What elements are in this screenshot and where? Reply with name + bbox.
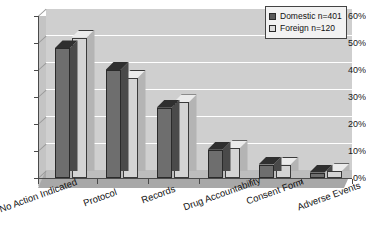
bar-domestic	[157, 100, 172, 178]
x-axis-line	[38, 178, 352, 179]
y-axis-tick-label: 40%	[332, 66, 366, 75]
x-axis-tick-mark	[148, 179, 149, 184]
bar-side-face	[138, 70, 146, 171]
y-axis-tick-label: 20%	[332, 120, 366, 129]
bar-front-face	[208, 150, 223, 178]
category-label: Protocol	[82, 187, 118, 208]
chart-legend: Domestic n=401 Foreign n=120	[265, 6, 347, 39]
legend-item-domestic: Domestic n=401	[269, 11, 342, 22]
legend-swatch-domestic-icon	[269, 13, 276, 20]
x-axis-tick-mark	[97, 179, 98, 184]
bar-front-face	[55, 48, 70, 178]
y-axis-tick-label: 30%	[332, 93, 366, 102]
bar-side-face	[189, 94, 197, 171]
bar-domestic	[310, 165, 325, 178]
bar-side-face	[70, 40, 78, 171]
legend-label-foreign: Foreign n=120	[280, 24, 335, 33]
bar-domestic	[106, 62, 121, 178]
chart-container: 0%10%20%30%40%50%60% No Action Indicated…	[0, 0, 366, 240]
y-axis-tick-label: 50%	[332, 39, 366, 48]
bar-front-face	[259, 165, 274, 179]
legend-item-foreign: Foreign n=120	[269, 23, 342, 34]
bar-domestic	[208, 142, 223, 178]
y-axis-tick-label: 10%	[332, 147, 366, 156]
bar-front-face	[327, 171, 342, 178]
bar-domestic	[259, 157, 274, 179]
bar-side-face	[172, 100, 180, 171]
bar-domestic	[55, 40, 70, 178]
x-axis-tick-mark	[199, 179, 200, 184]
bar-front-face	[106, 70, 121, 178]
x-axis-tick-mark	[38, 179, 39, 184]
bar-side-face	[121, 62, 129, 171]
bar-front-face	[310, 173, 325, 178]
legend-swatch-foreign-icon	[269, 25, 276, 32]
bar-front-face	[157, 108, 172, 178]
bar-side-face	[87, 30, 95, 171]
y-axis-line	[38, 16, 39, 179]
legend-label-domestic: Domestic n=401	[280, 12, 342, 21]
